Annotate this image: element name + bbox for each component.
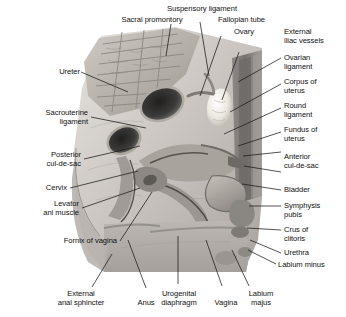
label-suspensory-ligament: Suspensory ligament (150, 5, 254, 14)
label-crus-of-clitoris: Crus of clitoris (284, 226, 342, 243)
label-fallopian-tube: Fallopian tube (218, 16, 288, 25)
leader-labium-minus (248, 250, 276, 264)
label-corpus-of-uterus: Corpus of uterus (284, 78, 344, 95)
label-ureter: Ureter (22, 68, 80, 77)
label-symphysis-pubis: Symphysis pubis (284, 202, 346, 219)
label-ovary: Ovary (234, 28, 274, 37)
label-labium-majus: Labium majus (236, 290, 286, 307)
label-round-ligament: Round ligament (284, 102, 344, 119)
label-bladder: Bladder (284, 186, 344, 195)
label-fundus-of-uterus: Fundus of uterus (284, 126, 344, 143)
label-sacrouterine-ligament: Sacrouterine ligament (8, 109, 88, 126)
crus-of-clitoris (231, 226, 249, 238)
label-external-anal-sphincter: External anal sphincter (34, 290, 128, 307)
label-labium-minus: Labium minus (278, 261, 346, 270)
label-posterior-cul-de-sac: Posterior cul-de-sac (8, 151, 81, 168)
label-sacral-promontory: Sacral promontory (106, 16, 198, 25)
label-levator-ani-muscle: Levator ani muscle (6, 200, 79, 217)
label-urogenital-diaphragm: Urogenital diaphragm (147, 290, 211, 307)
label-anterior-cul-de-sac: Anterior cul-de-sac (284, 153, 346, 170)
label-external-iliac-vessels: External iliac vessels (284, 28, 346, 45)
label-urethra: Urethra (284, 249, 342, 258)
abdominal-wall-inner-stripe (239, 57, 251, 202)
symphysis-pubis (229, 200, 255, 227)
anatomy-figure: Sacral promontory Suspensory ligament Fa… (0, 0, 346, 317)
label-cervix: Cervix (12, 184, 67, 193)
labium-minus-form (238, 247, 252, 257)
label-fornix-of-vagina: Fornix of vagina (16, 237, 117, 246)
label-ovarian-ligament: Ovarian ligament (284, 54, 344, 71)
